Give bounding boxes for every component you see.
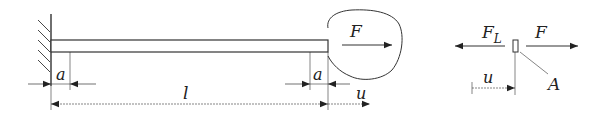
dimension-left-a: a [28, 65, 96, 84]
dimension-length-l: l [51, 83, 328, 104]
area-element [513, 40, 518, 52]
beam-diagram: F a a l u FL F u A [0, 0, 607, 114]
area-label: A [546, 74, 560, 94]
fbd-displacement-label: u [483, 68, 493, 87]
free-body-diagram: FL F u A [455, 22, 578, 95]
fixed-wall-support [38, 14, 51, 86]
beam [51, 40, 328, 52]
force-label: F [349, 21, 363, 41]
applied-force-label: F [534, 22, 548, 42]
area-leader-line [520, 52, 548, 74]
length-label: l [183, 83, 188, 103]
right-gap-label: a [313, 65, 323, 84]
left-gap-label: a [56, 65, 66, 84]
dimension-displacement-u: u [328, 84, 370, 104]
dimension-right-a: a [285, 65, 350, 84]
displacement-label: u [356, 84, 366, 103]
reaction-force-label: FL [481, 22, 502, 46]
